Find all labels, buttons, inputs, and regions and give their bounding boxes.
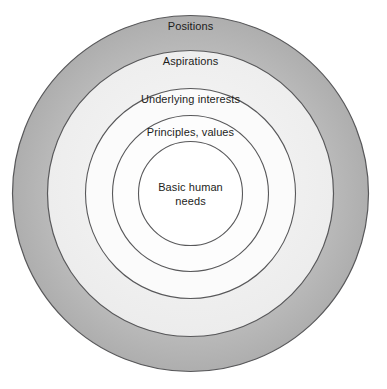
circles-graphic xyxy=(0,0,387,389)
concentric-circles-diagram: Positions Aspirations Underlying interes… xyxy=(0,0,387,389)
ring-circle-basic-human-needs xyxy=(139,142,243,246)
